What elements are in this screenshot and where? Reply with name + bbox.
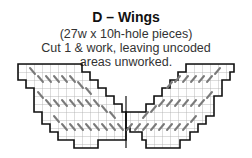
left-wing (18, 64, 126, 148)
wings-stitch-chart (0, 0, 252, 158)
